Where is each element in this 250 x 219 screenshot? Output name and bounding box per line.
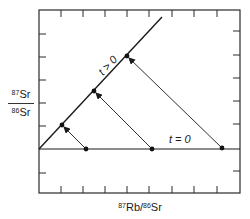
x-element-1: Rb/: [126, 201, 143, 213]
y-den-element: Sr: [19, 106, 30, 118]
left-axis-ticks: [39, 34, 46, 173]
x-axis-label: 87Rb/86Sr: [112, 201, 168, 214]
y-num-element: Sr: [19, 88, 30, 100]
arrow-sample-2: [96, 93, 152, 149]
x-isotope-1: 87: [118, 202, 126, 209]
right-axis-ticks: [233, 31, 240, 171]
plot-frame: [39, 10, 240, 193]
label-t0: t = 0: [169, 133, 192, 145]
arrow-sample-1: [64, 127, 86, 149]
y-axis-label: 87Sr 86Sr: [6, 88, 36, 119]
x-element-2: Sr: [151, 201, 162, 213]
sample-point: [220, 146, 225, 151]
x-isotope-2: 86: [143, 202, 151, 209]
y-den-isotope: 86: [12, 107, 20, 114]
top-axis-ticks: [61, 10, 217, 17]
y-label-numerator: 87Sr: [6, 88, 36, 102]
sample-point: [125, 54, 130, 59]
isochron-diagram: t = 0 t > 0: [0, 0, 250, 219]
sample-point: [150, 147, 155, 152]
evolution-arrows: [64, 58, 222, 149]
sample-point: [84, 147, 89, 152]
y-num-isotope: 87: [12, 89, 20, 96]
label-t-gt-0: t > 0: [96, 53, 120, 78]
y-label-denominator: 86Sr: [6, 106, 36, 119]
fraction-bar: [8, 103, 34, 104]
sample-point: [92, 89, 97, 94]
sample-point: [60, 123, 65, 128]
isochron-line: [39, 17, 162, 149]
bottom-axis-ticks: [61, 186, 217, 193]
